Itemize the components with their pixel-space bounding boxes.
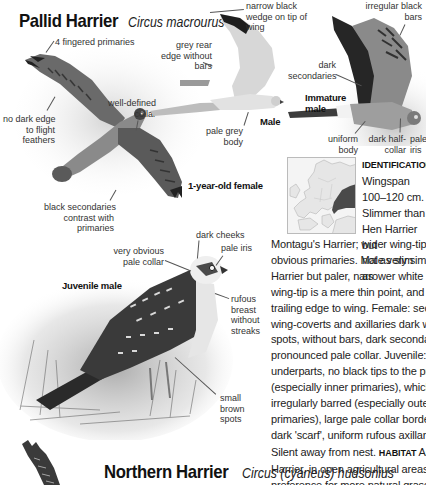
label-dark-cheeks: dark cheeks (196, 230, 245, 241)
label-dark-half-collar: dark half- collar (368, 134, 406, 155)
common-name: Northern Harrier (104, 461, 228, 483)
caption-juvenile-male: Juvenile male (62, 280, 122, 291)
caption-immature-male: Immature male (305, 92, 346, 114)
label-pale-grey-body: pale grey body (195, 126, 243, 147)
caption-female-1yr: 1-year-old female (188, 180, 263, 191)
label-rufous-breast: rufous breast without streaks (231, 294, 260, 336)
label-fingered-primaries: 4 fingered primaries (55, 37, 135, 48)
label-no-dark-edge: no dark edge to flight feathers (3, 114, 55, 146)
label-black-secondaries: black secondaries contrast with primarie… (44, 202, 114, 234)
label-small-brown-spots: small brown spots (220, 393, 245, 425)
label-well-defined-collar: well-defined collar (108, 98, 156, 119)
illustration-northern-wing-partial (18, 438, 62, 485)
label-irregular-black-bars: irregular black bars (350, 1, 422, 22)
identification-text-wide: Montagu's Harrier; wider wing-tips with … (271, 237, 426, 485)
label-pale-iris-immature: pale iris (410, 134, 426, 155)
distribution-map (287, 157, 356, 234)
latin-name: Circus (cyaneus) hudsonius (242, 465, 394, 481)
keyword-identification: IDENTIFICATION (362, 160, 426, 170)
caption-male: Male (260, 116, 280, 127)
label-uniform-body: uniform body (324, 134, 358, 155)
keyword-habitat: HABITAT (379, 448, 416, 458)
label-grey-rear-edge: grey rear edge without bars (156, 40, 212, 72)
label-dark-secondaries: dark secondaries (288, 60, 336, 81)
species-title-northern: Northern Harrier Circus (cyaneus) hudson… (104, 461, 415, 483)
label-very-obvious-pale-collar: very obvious pale collar (110, 246, 164, 267)
common-name: Pallid Harrier (19, 10, 118, 32)
illustration-juvenile-male (0, 240, 240, 440)
label-pale-iris-juvenile: pale iris (221, 243, 252, 254)
